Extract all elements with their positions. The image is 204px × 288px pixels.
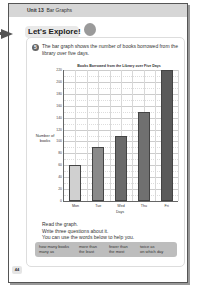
y-tick-label: 160 (50, 104, 62, 108)
instructions: Read the graph. Write three questions ab… (42, 221, 134, 241)
word-bank-item: how many books many as (39, 244, 69, 254)
arrow-marker-icon (1, 29, 13, 39)
y-tick-label: 200 (50, 80, 62, 84)
bar-mon (69, 165, 81, 201)
y-tick-label: 0 (50, 199, 62, 203)
x-tick-label: Wed (111, 204, 131, 208)
vertical-gridline (155, 70, 156, 201)
y-tick-label: 120 (50, 128, 62, 132)
y-tick-label: 100 (50, 139, 62, 143)
unit-topic: Bar Graphs (46, 7, 72, 13)
y-tick-label: 40 (50, 175, 62, 179)
y-tick-label: 140 (50, 116, 62, 120)
unit-label: Unit 13 (27, 7, 44, 13)
word-bank-item: twice as on which day (140, 244, 163, 254)
x-tick-label: Mon (65, 204, 85, 208)
ribbon-badge-icon (84, 23, 96, 36)
textbook-page: Unit 13 Bar Graphs Let's Explore! 5 The … (8, 3, 188, 283)
y-tick-label: 220 (50, 68, 62, 72)
chart-title: Books Borrowed from the Library over Fiv… (59, 64, 179, 68)
word-bank-item: fewer than the most (109, 244, 128, 254)
x-tick-label: Thu (134, 204, 154, 208)
y-tick-label: 20 (50, 187, 62, 191)
question-number: 5 (32, 44, 39, 51)
bar-wed (115, 136, 127, 202)
x-tick-label: Tue (88, 204, 108, 208)
bar-chart-plot: 020406080100120140160180200220MonTueWedT… (63, 70, 178, 202)
exercise-card: 5 The bar graph shows the number of book… (26, 37, 185, 267)
y-tick-label: 180 (50, 92, 62, 96)
page-number: 44 (12, 266, 22, 274)
vertical-gridline (178, 70, 179, 201)
vertical-gridline (110, 70, 111, 201)
unit-heading: Unit 13 Bar Graphs (27, 7, 72, 13)
bar-tue (92, 147, 104, 201)
y-tick-label: 80 (50, 151, 62, 155)
x-axis-label: Days (63, 210, 177, 214)
instruction-line-3: You can use the words below to help you. (42, 234, 134, 241)
question-intro: The bar graph shows the number of books … (42, 43, 182, 57)
x-tick-label: Fri (157, 204, 177, 208)
page-header: Unit 13 Bar Graphs (9, 4, 187, 17)
bar-fri (161, 70, 173, 201)
bar-thu (138, 112, 150, 201)
y-tick-label: 60 (50, 163, 62, 167)
section-title: Let's Explore! (28, 27, 81, 36)
word-bank-item: more than the least (79, 244, 97, 254)
vertical-gridline (132, 70, 133, 201)
word-bank: how many books many as more than the lea… (35, 242, 177, 257)
vertical-gridline (87, 70, 88, 201)
